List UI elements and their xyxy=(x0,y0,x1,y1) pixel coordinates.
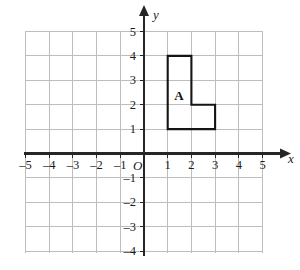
y-tick-label-1: 1 xyxy=(114,123,136,136)
y-tick-label-2: 2 xyxy=(114,99,136,112)
y-tick-label--3: –3 xyxy=(114,221,136,234)
x-tick-label--1: –1 xyxy=(109,159,131,172)
x-tick-label--5: –5 xyxy=(15,159,37,172)
x-axis-label: x xyxy=(288,152,294,165)
x-tick-label--4: –4 xyxy=(38,159,60,172)
coordinate-plane-svg xyxy=(0,0,300,270)
y-tick-label-5: 5 xyxy=(114,26,136,39)
x-axis xyxy=(24,149,291,159)
y-axis xyxy=(139,5,149,256)
y-tick-label--4: –4 xyxy=(114,245,136,258)
shape-a-label: A xyxy=(172,89,186,102)
x-tick-label-4: 4 xyxy=(228,159,250,172)
origin-label: O xyxy=(133,159,142,172)
y-tick-label--1: –1 xyxy=(114,172,136,185)
coordinate-grid-figure: –5 –4 –3 –2 –1 1 2 3 4 5 5 4 3 2 1 –1 –2… xyxy=(0,0,300,270)
x-tick-label--3: –3 xyxy=(62,159,84,172)
y-axis-arrowhead xyxy=(139,5,149,16)
y-axis-label: y xyxy=(153,8,159,21)
x-tick-label-3: 3 xyxy=(204,159,226,172)
y-tick-label-4: 4 xyxy=(114,50,136,63)
x-tick-label--2: –2 xyxy=(86,159,108,172)
y-tick-label-3: 3 xyxy=(114,74,136,87)
x-tick-label-2: 2 xyxy=(180,159,202,172)
y-tick-label--2: –2 xyxy=(114,196,136,209)
x-tick-label-5: 5 xyxy=(252,159,274,172)
x-tick-label-1: 1 xyxy=(157,159,179,172)
